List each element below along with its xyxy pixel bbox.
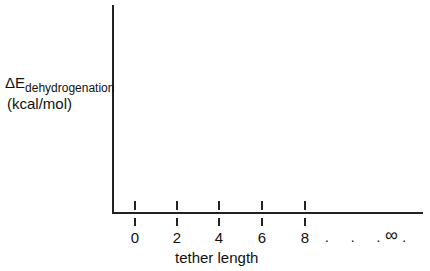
x-tick-mark (218, 201, 220, 210)
x-axis-continuation-dots: . . . . (325, 229, 415, 245)
x-tick-mark (304, 201, 306, 210)
x-tick-mark (218, 218, 220, 226)
y-axis-unit: (kcal/mol) (7, 95, 72, 112)
x-tick-mark (261, 201, 263, 210)
x-tick-mark (176, 201, 178, 210)
x-tick-label: 4 (209, 229, 229, 246)
x-tick-mark (176, 218, 178, 226)
y-axis-label: ΔEdehydrogenation (5, 74, 114, 95)
x-tick-label: 0 (125, 229, 145, 246)
x-axis (112, 212, 423, 214)
x-tick-mark (134, 218, 136, 226)
x-tick-mark (261, 218, 263, 226)
x-tick-mark (304, 218, 306, 226)
x-axis-label: tether length (175, 249, 258, 266)
infinity-tick-label: ∞ (385, 225, 398, 246)
x-tick-label: 2 (167, 229, 187, 246)
x-tick-label: 6 (252, 229, 272, 246)
x-tick-mark (134, 201, 136, 210)
x-tick-label: 8 (295, 229, 315, 246)
y-axis (112, 5, 114, 214)
